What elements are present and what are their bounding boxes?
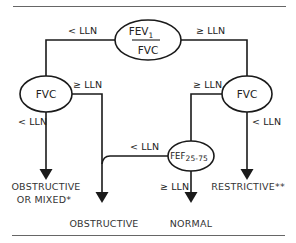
outcome-restrictive: RESTRICTIVE** <box>211 181 285 192</box>
outcome-obstructive: OBSTRUCTIVE <box>69 218 138 229</box>
edge-right-fvc-left <box>191 94 222 145</box>
outcome-normal: NORMAL <box>170 218 213 229</box>
node-left-fvc-label: FVC <box>36 88 57 100</box>
arrowhead-obstructive-mixed <box>40 169 53 180</box>
node-root-top-label: FEV <box>129 25 150 37</box>
edge-root-right <box>181 40 247 77</box>
outcome-obstructive-or-mixed-line2: OR MIXED* <box>17 194 72 205</box>
edge-label-root-left: < LLN <box>68 25 97 36</box>
node-root-top-sub: 1 <box>149 31 154 40</box>
arrowhead-obstructive <box>96 192 109 203</box>
edge-label-left-fvc-down: < LLN <box>18 116 47 127</box>
edge-label-right-fvc-down: < LLN <box>252 116 281 127</box>
edge-left-fvc-right <box>72 94 102 193</box>
edge-label-fef-left: < LLN <box>130 141 159 152</box>
arrowhead-restrictive <box>241 169 254 180</box>
node-root-bottom-label: FVC <box>138 44 159 56</box>
edge-fef-left <box>102 156 168 164</box>
edge-root-left <box>46 40 115 77</box>
edge-label-right-fvc-left: ≥ LLN <box>193 79 222 90</box>
edge-label-root-right: ≥ LLN <box>196 25 225 36</box>
node-fef-sub: 25-75 <box>186 154 208 163</box>
outcome-obstructive-or-mixed-line1: OBSTRUCTIVE <box>11 181 80 192</box>
edge-label-left-fvc-right: ≥ LLN <box>73 79 102 90</box>
node-right-fvc-label: FVC <box>237 88 258 100</box>
spirometry-flowchart: FEV1 FVC FVC FVC FEF25-75 < LLN ≥ LLN ≥ … <box>0 0 296 243</box>
arrowhead-normal <box>185 192 198 203</box>
edge-label-fef-down: ≥ LLN <box>160 181 189 192</box>
node-fef-label: FEF <box>170 151 185 161</box>
